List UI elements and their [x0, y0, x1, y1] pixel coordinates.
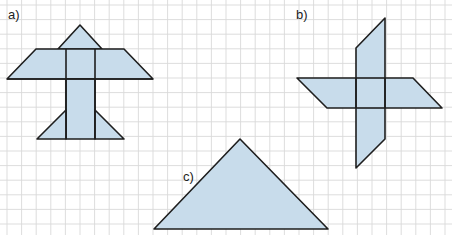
figure-label-a: a): [8, 7, 20, 22]
figure-c-polygon: [154, 139, 328, 229]
figure-canvas: a)b)c): [0, 0, 452, 235]
figure-a-polygon: [7, 49, 153, 79]
figure-b-polygon: [356, 18, 385, 168]
figure-a: a): [7, 7, 153, 139]
figure-b: b): [296, 7, 442, 168]
figure-label-c: c): [183, 169, 194, 184]
figure-a-polygon: [66, 79, 95, 139]
figure-label-b: b): [296, 7, 308, 22]
figures-layer: a)b)c): [7, 7, 442, 229]
figure-c: c): [154, 139, 328, 229]
figure-a-polygon: [58, 25, 102, 49]
figure-a-polygon: [37, 110, 66, 139]
